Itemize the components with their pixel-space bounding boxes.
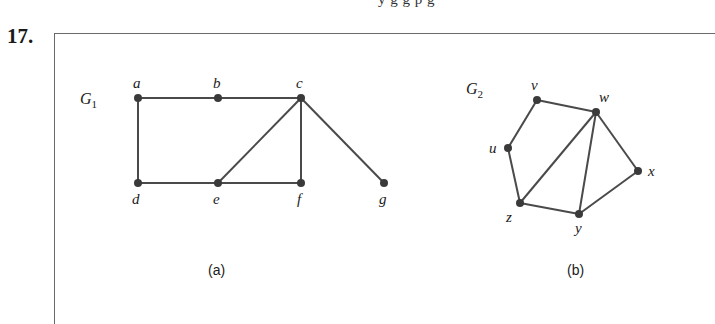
vertex-b [214,94,222,102]
graph-g1: G1 a b c d e f g (a [80,75,388,278]
edge-w-z [520,112,596,203]
graph-label-g2: G2 [466,80,483,100]
vertex-label-v: v [531,77,538,93]
edge-v-w [537,100,596,112]
vertex-d [134,179,142,187]
edges-g1 [138,98,384,183]
vertex-u [504,144,512,152]
graph-g2: G2 u v w x y z (b) [466,77,655,278]
caption-b: (b) [567,262,584,278]
vertices-g2 [504,96,642,218]
vertex-label-g: g [379,191,387,207]
vertex-w [592,108,600,116]
vertex-label-z: z [505,209,512,225]
vertex-a [134,94,142,102]
edge-z-u [508,148,520,203]
vertex-label-c: c [296,75,303,91]
edge-x-y [579,171,638,214]
graph-label-g1: G1 [80,90,97,110]
vertex-label-d: d [132,191,140,207]
vertex-e [214,179,222,187]
vertex-label-b: b [213,75,221,91]
vertex-label-u: u [489,140,497,156]
caption-a: (a) [208,262,225,278]
vertex-x [634,167,642,175]
vertex-label-x: x [647,163,655,179]
edges-g2 [508,100,638,214]
vertex-g [380,179,388,187]
vertex-label-f: f [297,191,303,207]
vertex-label-y: y [573,220,582,236]
edge-w-y [579,112,596,214]
edge-y-z [520,203,579,214]
vertex-label-w: w [599,89,609,105]
vertex-y [575,210,583,218]
edge-c-g [301,98,384,183]
edge-u-v [508,100,537,148]
vertices-g1 [134,94,388,187]
vertex-f [297,179,305,187]
vertex-v [533,96,541,104]
vertex-label-e: e [213,191,220,207]
vertex-label-a: a [133,75,141,91]
vertex-z [516,199,524,207]
vertex-c [297,94,305,102]
edge-c-e [218,98,301,183]
edge-w-x [596,112,638,171]
